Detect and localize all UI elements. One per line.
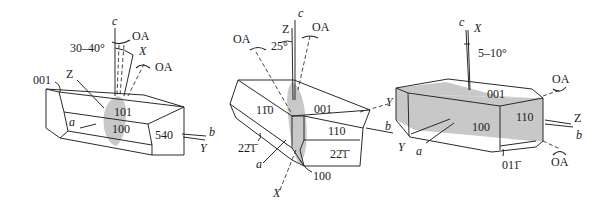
a-axis-line xyxy=(80,124,96,128)
y-direction-line xyxy=(183,137,205,140)
z-direction-label: Z xyxy=(282,22,289,36)
y-direction-label: Y xyxy=(386,95,394,109)
right-crystal: c X 5–10° 001 OA 100 110 Z b Y a 011̄ OA xyxy=(396,15,582,172)
face-label-001: 001 xyxy=(314,102,332,116)
y-direction-label: Y xyxy=(398,140,406,154)
angle-arc xyxy=(115,48,133,55)
face-label-101: 101 xyxy=(114,105,132,119)
x-direction-label: X xyxy=(272,186,281,200)
optic-axis-label: OA xyxy=(155,60,173,74)
c-axis-label: c xyxy=(112,14,118,28)
z-direction-label: Z xyxy=(574,111,581,125)
x-direction-label: X xyxy=(138,44,147,58)
optic-axis-rotation-arrow xyxy=(553,87,566,91)
x-direction-label: X xyxy=(473,21,482,35)
left-crystal: c 30–40° OA X OA Z 001 101 100 a 540 b Y xyxy=(33,14,215,155)
face-label-110: 110 xyxy=(516,110,534,124)
face-label-22-1-right: 22̄1̄ xyxy=(330,147,350,161)
x-direction-dashed xyxy=(280,150,296,190)
face-label-01-1: 011̄ xyxy=(502,158,522,172)
face-label-100: 100 xyxy=(112,122,130,136)
figure-canvas: c 30–40° OA X OA Z 001 101 100 a 540 b Y xyxy=(0,0,610,206)
optic-axis-dashed xyxy=(117,45,119,96)
face-label-100: 100 xyxy=(313,169,331,183)
angle-label: 30–40° xyxy=(70,41,105,55)
crystal-edge xyxy=(148,124,152,145)
x-direction-line xyxy=(124,55,133,96)
optic-axis-label: OA xyxy=(551,155,569,169)
c-axis-label: c xyxy=(459,15,465,29)
a-axis-label: a xyxy=(69,115,75,129)
optic-axis-rotation-arrow xyxy=(250,48,266,51)
c-axis-label: c xyxy=(298,6,304,20)
z-direction-line xyxy=(545,120,571,124)
face-label-1-10: 11̄0 xyxy=(256,103,274,117)
optic-axis-label: OA xyxy=(312,20,330,34)
optic-axis-dashed xyxy=(298,36,310,90)
optic-axis-label: OA xyxy=(233,32,251,46)
a-axis-line xyxy=(263,140,286,163)
face-label-100: 100 xyxy=(472,120,490,134)
face-label-001: 001 xyxy=(487,87,505,101)
optic-axis-dashed xyxy=(120,45,124,96)
face-label-540: 540 xyxy=(155,128,173,142)
b-axis-label: b xyxy=(209,125,215,139)
face-label-001: 001 xyxy=(33,73,51,87)
face-001-leader xyxy=(55,82,60,92)
crystal-optics-figure: c 30–40° OA X OA Z 001 101 100 a 540 b Y xyxy=(0,0,610,206)
optic-axis-label: OA xyxy=(552,72,570,86)
optic-axis-label: OA xyxy=(132,29,150,43)
face-label-110: 110 xyxy=(328,124,346,138)
z-direction-label: Z xyxy=(66,67,73,81)
a-axis-label: a xyxy=(416,144,422,158)
y-direction-label: Y xyxy=(200,141,208,155)
angle-label: 5–10° xyxy=(478,46,507,60)
a-axis-label: a xyxy=(256,157,262,171)
optic-axis-dashed xyxy=(543,141,560,149)
b-axis-line xyxy=(182,134,206,136)
b-axis-line xyxy=(545,124,573,127)
z-leader-line xyxy=(77,80,104,108)
crystal-edge xyxy=(60,131,68,138)
b-axis-label: b xyxy=(576,128,582,142)
face-01-1-leader xyxy=(503,149,504,156)
crystal-edge xyxy=(500,141,536,146)
angle-label: 25° xyxy=(271,39,288,53)
middle-crystal: c Z OA 25° OA 11̄0 001 110 22̄1̄ 22̄1̄ a… xyxy=(230,6,394,200)
face-label-22-1-left: 22̄1̄ xyxy=(238,141,258,155)
b-axis-label: b xyxy=(385,119,391,133)
